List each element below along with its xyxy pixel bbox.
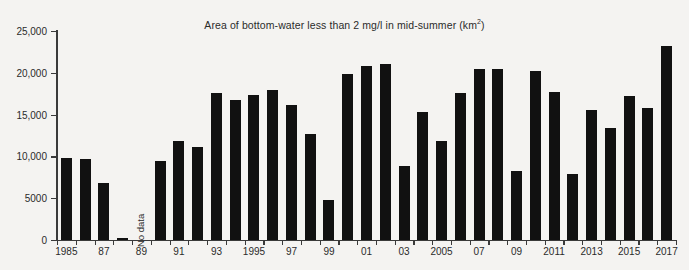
- x-tick-label: 2017: [655, 246, 677, 257]
- y-axis-labels: 0500010,00015,00020,00025,000: [0, 0, 47, 270]
- x-tick-mark: [282, 240, 283, 245]
- x-tick-label: 91: [173, 246, 184, 257]
- bar: [380, 64, 391, 240]
- bar: [605, 128, 616, 240]
- x-tick-label: 1995: [243, 246, 265, 257]
- x-tick-mark: [657, 240, 658, 245]
- bar: [173, 141, 184, 240]
- x-tick-label: 89: [136, 246, 147, 257]
- x-tick-mark: [507, 240, 508, 245]
- bar: [267, 90, 278, 240]
- y-tick-label: 10,000: [0, 151, 47, 162]
- x-tick-mark: [638, 240, 639, 245]
- bar: [624, 96, 635, 240]
- x-axis-labels: 1985878991931995979901032005070920112013…: [0, 246, 689, 264]
- y-tick-label: 0: [0, 235, 47, 246]
- x-tick-mark: [432, 240, 433, 245]
- bar: [492, 69, 503, 240]
- bar: [248, 95, 259, 240]
- chart-title: Area of bottom-water less than 2 mg/l in…: [0, 18, 689, 31]
- x-tick-mark: [207, 240, 208, 245]
- y-tick-label: 5000: [0, 193, 47, 204]
- x-tick-mark: [338, 240, 339, 245]
- bar: [474, 69, 485, 240]
- x-tick-mark: [376, 240, 377, 245]
- bar: [586, 110, 597, 240]
- x-tick-label: 01: [361, 246, 372, 257]
- x-tick-mark: [545, 240, 546, 245]
- x-tick-label: 99: [323, 246, 334, 257]
- bar: [642, 108, 653, 240]
- chart-container: Area of bottom-water less than 2 mg/l in…: [0, 0, 689, 270]
- x-tick-mark: [151, 240, 152, 245]
- x-tick-label: 2011: [543, 246, 565, 257]
- bar: [305, 134, 316, 240]
- bar: [661, 46, 672, 240]
- bar: [455, 93, 466, 240]
- y-tick-label: 25,000: [0, 26, 47, 37]
- bar: [436, 141, 447, 240]
- x-tick-mark: [188, 240, 189, 245]
- x-tick-label: 2015: [618, 246, 640, 257]
- bar: [155, 161, 166, 240]
- bar: [80, 159, 91, 240]
- bar: [192, 147, 203, 240]
- bar: [286, 105, 297, 240]
- x-tick-mark: [470, 240, 471, 245]
- x-tick-mark: [582, 240, 583, 245]
- x-tick-mark: [357, 240, 358, 245]
- bar: [342, 74, 353, 240]
- x-tick-mark: [301, 240, 302, 245]
- x-tick-label: 07: [473, 246, 484, 257]
- x-tick-mark: [601, 240, 602, 245]
- x-tick-mark: [563, 240, 564, 245]
- x-tick-label: 87: [98, 246, 109, 257]
- x-tick-mark: [320, 240, 321, 245]
- x-tick-mark: [132, 240, 133, 245]
- bar: [211, 93, 222, 240]
- x-tick-mark: [395, 240, 396, 245]
- x-tick-mark: [413, 240, 414, 245]
- x-tick-mark: [245, 240, 246, 245]
- x-tick-mark: [451, 240, 452, 245]
- chart-title-main: Area of bottom-water less than 2 mg/l in…: [204, 19, 477, 31]
- y-tick-label: 15,000: [0, 109, 47, 120]
- no-data-annotation: No data: [135, 214, 146, 247]
- x-tick-label: 09: [511, 246, 522, 257]
- bar-series: [57, 31, 676, 240]
- bar: [230, 100, 241, 240]
- x-tick-mark: [113, 240, 114, 245]
- bar: [361, 66, 372, 240]
- x-tick-mark: [57, 240, 58, 245]
- x-tick-mark: [620, 240, 621, 245]
- bar: [511, 171, 522, 240]
- bar: [530, 71, 541, 240]
- bar: [98, 183, 109, 240]
- x-tick-mark: [263, 240, 264, 245]
- x-tick-mark: [676, 240, 677, 245]
- x-tick-mark: [76, 240, 77, 245]
- x-tick-label: 97: [286, 246, 297, 257]
- x-tick-mark: [95, 240, 96, 245]
- bar: [417, 112, 428, 240]
- x-tick-mark: [170, 240, 171, 245]
- y-tick-label: 20,000: [0, 67, 47, 78]
- x-tick-mark: [226, 240, 227, 245]
- chart-title-tail: ): [481, 19, 485, 31]
- bar: [323, 200, 334, 240]
- x-tick-label: 03: [398, 246, 409, 257]
- x-tick-label: 2013: [580, 246, 602, 257]
- x-tick-label: 1985: [55, 246, 77, 257]
- bar: [567, 174, 578, 240]
- x-tick-mark: [488, 240, 489, 245]
- x-tick-mark: [526, 240, 527, 245]
- bar: [61, 158, 72, 240]
- x-tick-label: 2005: [430, 246, 452, 257]
- bar: [399, 166, 410, 240]
- x-tick-label: 93: [211, 246, 222, 257]
- bar: [549, 92, 560, 240]
